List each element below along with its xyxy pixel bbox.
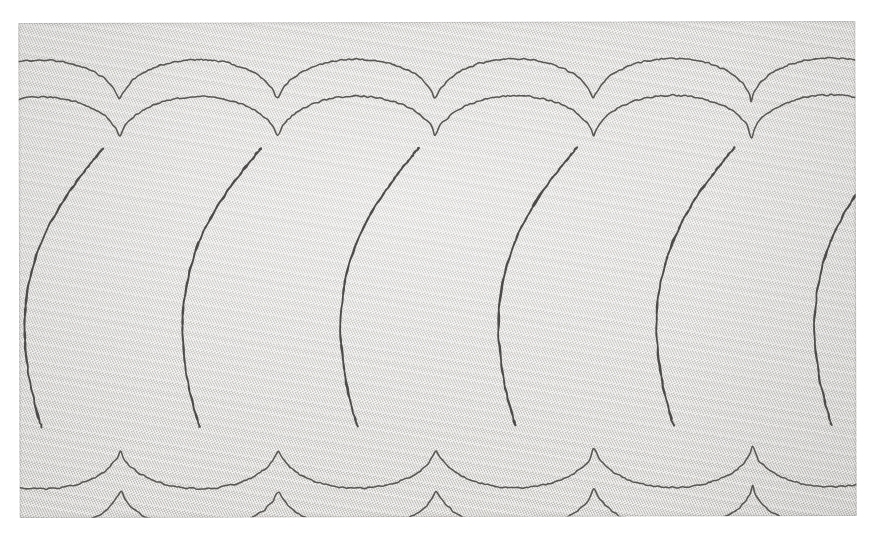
stitch-line (340, 148, 420, 427)
stitch-line (182, 148, 262, 427)
stitch-line (18, 94, 856, 141)
screenshot-canvas (0, 0, 873, 545)
stitch-line (656, 147, 736, 426)
teardrop-motif-group (18, 57, 856, 518)
stitch-line (18, 57, 856, 104)
stitch-line (814, 146, 857, 425)
stitch-line (498, 147, 578, 425)
stitch-line (24, 148, 104, 427)
fabric-swatch (18, 21, 856, 518)
stitch-line (18, 446, 856, 491)
stitch-pattern-layer (18, 21, 856, 518)
stitch-line (18, 485, 856, 518)
